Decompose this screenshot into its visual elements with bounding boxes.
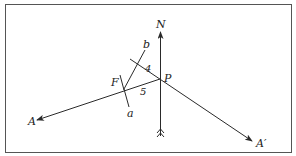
label-p: P xyxy=(163,72,172,85)
label-angle-4: 4 xyxy=(144,63,151,74)
label-angle-5: 5 xyxy=(140,86,146,97)
label-a-lower: a xyxy=(127,107,134,120)
label-north: N xyxy=(155,18,166,31)
label-ray-a-prime: A′ xyxy=(255,137,267,150)
label-ray-a: A xyxy=(27,115,36,128)
label-b: b xyxy=(143,38,150,51)
line-ab xyxy=(124,50,145,89)
diagram-border xyxy=(6,5,292,153)
line-ab-lower xyxy=(124,89,129,107)
f-mark-line xyxy=(120,75,124,90)
label-f: F xyxy=(110,76,119,89)
diagram-figure: N P F b a A A′ 4 5 xyxy=(0,0,296,156)
